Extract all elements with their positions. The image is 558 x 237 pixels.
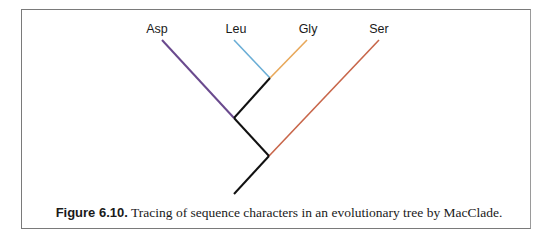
branch-internal-2 xyxy=(234,118,269,156)
leaf-label-gly: Gly xyxy=(299,22,318,36)
branch-asp xyxy=(162,40,234,118)
leaf-label-leu: Leu xyxy=(226,22,247,36)
branch-gly xyxy=(270,40,307,78)
caption-text: Tracing of sequence characters in an evo… xyxy=(128,205,503,220)
leaf-label-ser: Ser xyxy=(369,22,388,36)
branch-leu xyxy=(234,40,270,78)
branch-internal-1 xyxy=(234,78,270,118)
branch-root xyxy=(234,156,269,194)
branch-ser xyxy=(269,40,379,156)
leaf-label-asp: Asp xyxy=(146,22,168,36)
phylogenetic-tree xyxy=(0,0,558,237)
caption-label: Figure 6.10. xyxy=(56,205,128,220)
figure-caption: Figure 6.10. Tracing of sequence charact… xyxy=(0,205,558,221)
